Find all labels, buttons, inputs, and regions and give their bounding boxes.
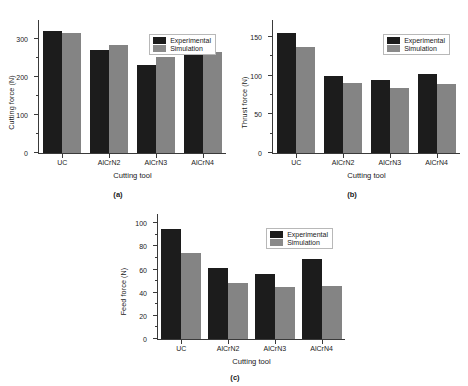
bar-experimental-alcrn4 [418, 74, 437, 153]
x-tick [181, 339, 182, 344]
legend-c: Experimental Simulation [266, 228, 333, 249]
x-tick-label: AlCrN2 [86, 159, 133, 166]
legend-item-simulation: Simulation [387, 45, 445, 52]
x-tick-label: AlCrN4 [413, 159, 460, 166]
x-tick [437, 153, 438, 158]
bar-simulation-alcrn3 [156, 57, 175, 153]
x-tick-label: AlCrN2 [205, 345, 252, 352]
legend-item-experimental: Experimental [387, 37, 445, 44]
bar-simulation-alcrn4 [437, 84, 456, 153]
bar-experimental-uc [277, 33, 296, 153]
bar-experimental-alcrn4 [184, 44, 203, 153]
x-tick-label: UC [39, 159, 86, 166]
plot-area-c: 020406080100 UCAlCrN2AlCrN3AlCrN4 Cuttin… [157, 214, 345, 340]
y-tick-label: 20 [139, 312, 147, 319]
y-axis-label-c: Feed force (N) [117, 198, 131, 384]
bar-group [158, 214, 205, 339]
y-tick-label: 0 [143, 336, 147, 343]
y-tick-label: 100 [16, 112, 28, 119]
x-tick [343, 153, 344, 158]
bar-simulation-uc [181, 253, 201, 339]
y-tick-label: 60 [139, 266, 147, 273]
x-tick-label: AlCrN3 [133, 159, 180, 166]
y-tick-label: 50 [254, 111, 262, 118]
bar-experimental-uc [161, 229, 181, 339]
bar-experimental-alcrn2 [90, 50, 109, 153]
y-tick-label: 200 [16, 74, 28, 81]
bar-experimental-alcrn3 [137, 65, 156, 153]
x-tick-labels-b: UCAlCrN2AlCrN3AlCrN4 [273, 159, 460, 166]
y-tick-label: 300 [16, 36, 28, 43]
x-tick-labels-c: UCAlCrN2AlCrN3AlCrN4 [158, 345, 345, 352]
panel-caption-c: (c) [115, 373, 355, 382]
bar-simulation-alcrn2 [343, 83, 362, 153]
plot-area-b: 050100150 UCAlCrN2AlCrN3AlCrN4 Cutting t… [272, 20, 460, 154]
y-tick-label: 0 [24, 150, 28, 157]
bar-group [320, 20, 367, 153]
bar-simulation-alcrn4 [322, 286, 342, 339]
x-tick-label: UC [273, 159, 320, 166]
x-axis-label-c: Cutting tool [158, 357, 345, 366]
legend-item-simulation: Simulation [270, 239, 328, 246]
x-axis-label-a: Cutting tool [39, 171, 226, 180]
plot-area-a: 0100200300 UCAlCrN2AlCrN3AlCrN4 Cutting … [38, 20, 226, 154]
y-tick-label: 100 [135, 220, 147, 227]
y-tick-label: 100 [250, 72, 262, 79]
figure-bar-charts: Cutting force (N) 0100200300 UCAlCrN2AlC… [0, 0, 468, 386]
bar-simulation-alcrn2 [228, 283, 248, 339]
legend-label-simulation: Simulation [404, 45, 437, 52]
y-axis-label-a: Cutting force (N) [4, 4, 18, 200]
x-tick-label: AlCrN3 [367, 159, 414, 166]
bar-experimental-alcrn2 [208, 268, 228, 339]
x-tick [62, 153, 63, 158]
panel-a-cutting-force: Cutting force (N) 0100200300 UCAlCrN2AlC… [2, 4, 234, 200]
bar-simulation-uc [296, 47, 315, 153]
x-tick-label: AlCrN4 [298, 345, 345, 352]
y-tick-label: 80 [139, 243, 147, 250]
x-tick-labels-a: UCAlCrN2AlCrN3AlCrN4 [39, 159, 226, 166]
legend-swatch-experimental-icon [270, 231, 283, 238]
bar-simulation-alcrn3 [390, 88, 409, 153]
x-tick-label: AlCrN4 [179, 159, 226, 166]
x-tick [109, 153, 110, 158]
x-tick [296, 153, 297, 158]
bar-experimental-alcrn2 [324, 76, 343, 153]
bar-experimental-alcrn3 [255, 274, 275, 339]
legend-swatch-simulation-icon [153, 45, 166, 52]
x-tick-label: UC [158, 345, 205, 352]
bar-group [86, 20, 133, 153]
bar-group [39, 20, 86, 153]
x-tick [156, 153, 157, 158]
legend-item-experimental: Experimental [270, 231, 328, 238]
x-tick [275, 339, 276, 344]
x-tick [203, 153, 204, 158]
y-tick-label: 40 [139, 289, 147, 296]
x-tick-label: AlCrN2 [320, 159, 367, 166]
legend-swatch-experimental-icon [387, 37, 400, 44]
legend-label-experimental: Experimental [404, 37, 445, 44]
bar-simulation-alcrn3 [275, 287, 295, 339]
x-tick [228, 339, 229, 344]
x-tick [390, 153, 391, 158]
bar-experimental-alcrn3 [371, 80, 390, 153]
legend-a: Experimental Simulation [149, 34, 216, 55]
x-tick [322, 339, 323, 344]
panel-b-thrust-force: Thrust force (N) 050100150 UCAlCrN2AlCrN… [236, 4, 468, 200]
panel-c-feed-force: Feed force (N) 020406080100 UCAlCrN2AlCr… [115, 198, 355, 384]
legend-b: Experimental Simulation [383, 34, 450, 55]
bar-experimental-uc [43, 31, 62, 153]
legend-label-simulation: Simulation [287, 239, 320, 246]
legend-label-experimental: Experimental [287, 231, 328, 238]
legend-item-experimental: Experimental [153, 37, 211, 44]
bar-simulation-uc [62, 33, 81, 153]
bar-simulation-alcrn2 [109, 45, 128, 153]
bar-group [205, 214, 252, 339]
y-tick-label: 0 [258, 150, 262, 157]
x-axis-label-b: Cutting tool [273, 171, 460, 180]
legend-swatch-simulation-icon [387, 45, 400, 52]
bar-simulation-alcrn4 [203, 52, 222, 153]
x-tick-label: AlCrN3 [252, 345, 299, 352]
bar-experimental-alcrn4 [302, 259, 322, 339]
legend-swatch-simulation-icon [270, 239, 283, 246]
bar-group [273, 20, 320, 153]
